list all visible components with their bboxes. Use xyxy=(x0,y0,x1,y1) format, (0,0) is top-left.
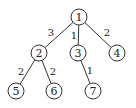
node-label: 6 xyxy=(51,85,58,98)
tree-node-2: 2 xyxy=(31,45,47,61)
tree-node-5: 5 xyxy=(8,83,24,99)
node-label: 2 xyxy=(36,47,43,60)
node-label: 1 xyxy=(76,11,83,24)
edge-weight-2-6: 2 xyxy=(50,66,56,77)
tree-node-1: 1 xyxy=(71,9,87,25)
tree-canvas: 312221 1234567 xyxy=(0,0,136,108)
edge-weight-2-5: 2 xyxy=(18,66,24,77)
tree-node-6: 6 xyxy=(46,83,62,99)
node-label: 7 xyxy=(90,85,97,98)
node-label: 3 xyxy=(75,47,82,60)
tree-node-4: 4 xyxy=(109,45,125,61)
edge-weight-3-7: 1 xyxy=(87,65,93,76)
nodes-layer: 1234567 xyxy=(8,9,125,99)
edge-weight-1-2: 3 xyxy=(48,27,54,38)
edge-weight-1-4: 2 xyxy=(104,27,110,38)
tree-node-7: 7 xyxy=(85,83,101,99)
tree-diagram: 312221 1234567 xyxy=(0,0,136,108)
tree-node-3: 3 xyxy=(70,45,86,61)
node-label: 4 xyxy=(114,47,121,60)
edge-weight-1-3: 1 xyxy=(71,30,77,41)
node-label: 5 xyxy=(13,85,20,98)
